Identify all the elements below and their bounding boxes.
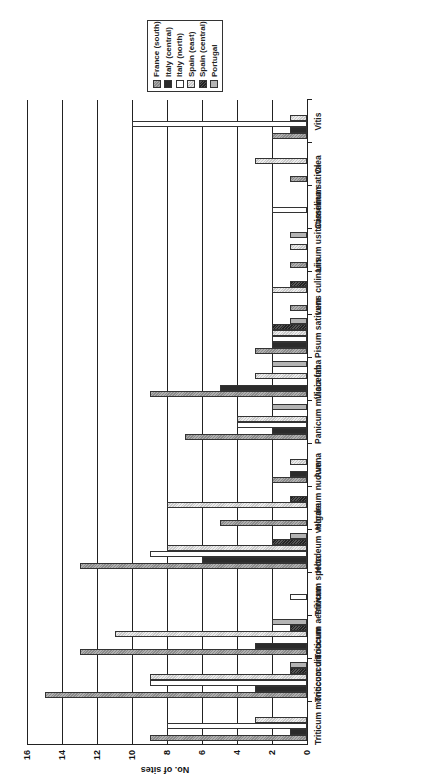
legend-item-spain-central: Spain (central) (197, 24, 209, 88)
category-label: Triticum dicoccum (313, 659, 323, 702)
x-tick (307, 529, 312, 530)
x-tick (307, 99, 312, 100)
bar (167, 545, 307, 551)
bar (272, 477, 307, 483)
bar (167, 502, 307, 508)
bar (290, 281, 308, 287)
bar (255, 717, 308, 723)
bar (272, 336, 307, 342)
bar (272, 428, 307, 434)
category-label: Panicum miliaceum (313, 401, 323, 444)
category-label: Vitis (313, 100, 323, 143)
gridline (62, 100, 63, 745)
bar (202, 557, 307, 563)
bar (272, 324, 307, 330)
bar (290, 176, 308, 182)
legend-item-italy-north: Italy (north) (174, 24, 186, 88)
bar (272, 361, 307, 367)
bar (290, 533, 308, 539)
legend-item-france-south: France (south) (151, 24, 163, 88)
bar (45, 692, 308, 698)
category-label: Camelina sativa (313, 186, 323, 229)
category-label: Lens culinaris (313, 272, 323, 315)
bar (290, 471, 308, 477)
legend-swatch (199, 80, 207, 88)
y-tick-label: 12 (92, 750, 102, 780)
bar (255, 373, 308, 379)
bar (290, 127, 308, 133)
y-axis-title: No. of sites (125, 765, 205, 775)
gridline (27, 100, 28, 745)
bar (272, 539, 307, 545)
bar (150, 680, 308, 686)
x-tick (307, 185, 312, 186)
bar (220, 520, 308, 526)
x-tick (307, 357, 312, 358)
bar (272, 404, 307, 410)
x-tick (307, 658, 312, 659)
category-label: Triticum monococcum (313, 702, 323, 745)
legend-item-italy-central: Italy (central) (163, 24, 175, 88)
legend-label: Spain (central) (198, 21, 207, 77)
x-tick (307, 486, 312, 487)
bar (272, 619, 307, 625)
legend-label: France (south) (152, 21, 161, 77)
bar (150, 674, 308, 680)
x-tick (307, 271, 312, 272)
category-label: Vicia faba (313, 358, 323, 401)
bar (237, 416, 307, 422)
category-label: Avena (313, 444, 323, 487)
legend-swatch (176, 80, 184, 88)
category-label: Triticum spelta (313, 573, 323, 616)
legend-item-portugal: Portugal (209, 24, 221, 88)
bar (185, 434, 308, 440)
bar (290, 459, 308, 465)
bar (290, 305, 308, 311)
legend-swatch (164, 80, 172, 88)
legend-label: Portugal (210, 45, 219, 77)
bar (290, 318, 308, 324)
chart-canvas: 0246810121416 No. of sites Triticum mono… (0, 0, 431, 780)
legend-label: Italy (central) (164, 27, 173, 77)
legend-swatch (187, 80, 195, 88)
bar (150, 735, 308, 741)
legend: France (south) Italy (central) Italy (no… (147, 20, 223, 92)
y-tick-label: 0 (302, 750, 312, 780)
bar (272, 287, 307, 293)
y-tick-label: 2 (267, 750, 277, 780)
x-tick (307, 400, 312, 401)
bar (255, 686, 308, 692)
bar (290, 262, 308, 268)
bar (290, 496, 308, 502)
category-label: Linum usitatissimum (313, 229, 323, 272)
bar (290, 668, 308, 674)
legend-swatch (210, 80, 218, 88)
bar (255, 643, 308, 649)
category-label: Hordeum nudum (313, 487, 323, 530)
category-label: Olea (313, 143, 323, 186)
bar (290, 594, 308, 600)
bar (220, 385, 308, 391)
x-tick (307, 228, 312, 229)
x-tick (307, 701, 312, 702)
category-label: Hordeum vulgare (313, 530, 323, 573)
bar (255, 348, 308, 354)
legend-label: Spain (east) (187, 32, 196, 77)
bar (150, 551, 308, 557)
bar (272, 133, 307, 139)
bar (80, 649, 308, 655)
bar (237, 422, 307, 428)
bar (290, 244, 308, 250)
bar (167, 723, 307, 729)
legend-label: Italy (north) (175, 33, 184, 77)
x-tick (307, 142, 312, 143)
bar (115, 631, 308, 637)
bar (272, 330, 307, 336)
legend-item-spain-east: Spain (east) (186, 24, 198, 88)
bar (290, 729, 308, 735)
category-label: Pisum sativum (313, 315, 323, 358)
bar (150, 391, 308, 397)
bar (272, 342, 307, 348)
x-tick (307, 615, 312, 616)
x-axis-line (307, 100, 308, 745)
